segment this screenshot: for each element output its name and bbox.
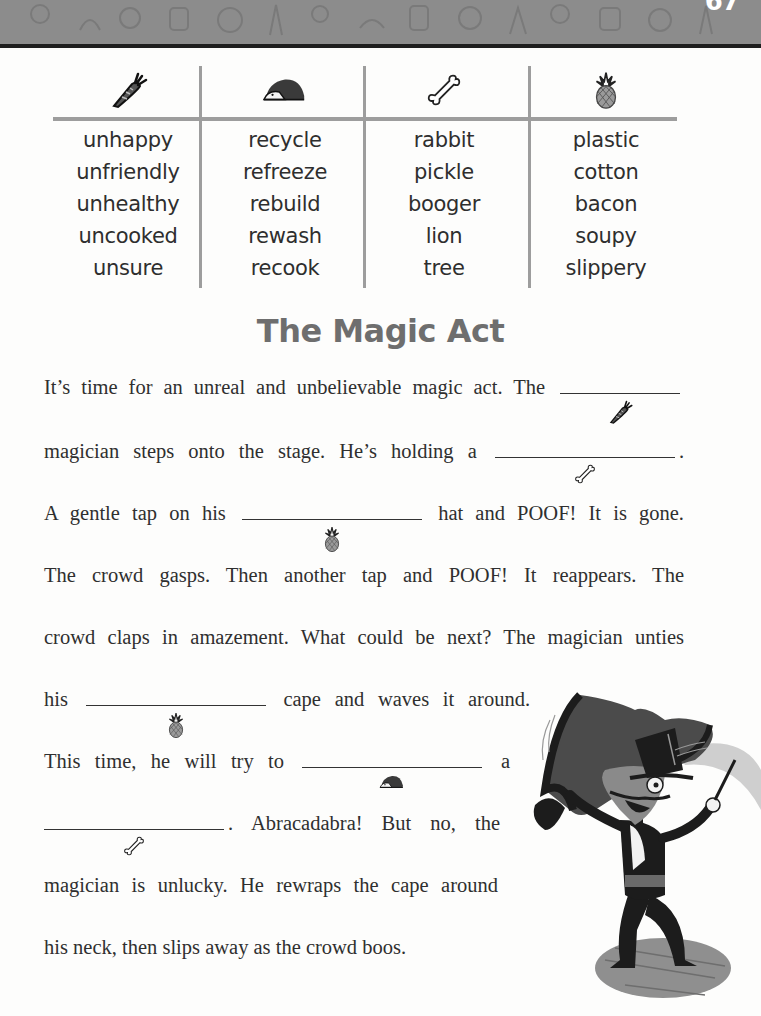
word-cell: plastic: [531, 124, 681, 156]
header-band: 67: [0, 0, 761, 48]
story-line: A gentle tap on his hat and POOF! It is …: [44, 502, 684, 525]
word-cell: recycle: [210, 124, 360, 156]
story-line: magician is unlucky. He rewraps the cape…: [44, 874, 498, 897]
pineapple-icon: [323, 525, 341, 553]
story-line: his cape and waves it around.: [44, 688, 530, 711]
bone-icon: [574, 463, 596, 485]
bone-icon: [426, 72, 462, 108]
word-cell: bacon: [531, 188, 681, 220]
word-cell: soupy: [531, 220, 681, 252]
blank-field[interactable]: [242, 503, 422, 520]
word-cell: booger: [369, 188, 519, 220]
story-line: crowd claps in amazement. What could be …: [44, 626, 684, 649]
blank-field[interactable]: [302, 751, 482, 768]
story-line: The crowd gasps. Then another tap and PO…: [44, 564, 684, 587]
pineapple-icon: [593, 71, 619, 109]
word-cell: rabbit: [369, 124, 519, 156]
word-cell: unfriendly: [53, 156, 203, 188]
table-column-pineapple: plastic cotton bacon soupy slippery: [531, 64, 681, 284]
story-line: . Abracadabra! But no, the: [44, 812, 500, 835]
blank-field[interactable]: [44, 813, 224, 830]
word-cell: unhealthy: [53, 188, 203, 220]
blank-field[interactable]: [560, 377, 680, 394]
word-cell: tree: [369, 252, 519, 284]
story-line: It’s time for an unreal and unbelievable…: [44, 376, 684, 399]
blank-field[interactable]: [495, 441, 675, 458]
word-cell: slippery: [531, 252, 681, 284]
word-cell: refreeze: [210, 156, 360, 188]
table-column-hedgehog: recycle refreeze rebuild rewash recook: [210, 64, 360, 284]
hedgehog-icon: [379, 773, 405, 791]
blank-field[interactable]: [86, 689, 266, 706]
pineapple-icon: [167, 711, 185, 739]
page-number: 67: [705, 0, 739, 16]
story-line: his neck, then slips away as the crowd b…: [44, 936, 406, 959]
word-cell: rewash: [210, 220, 360, 252]
word-cell: pickle: [369, 156, 519, 188]
word-cell: recook: [210, 252, 360, 284]
column-divider: [363, 66, 366, 288]
story-line: This time, he will try to a: [44, 750, 510, 773]
word-cell: cotton: [531, 156, 681, 188]
word-table: unhappy unfriendly unhealthy uncooked un…: [53, 64, 677, 290]
bone-icon: [123, 835, 145, 857]
story-line: magician steps onto the stage. He’s hold…: [44, 440, 684, 463]
word-cell: unhappy: [53, 124, 203, 156]
table-column-carrot: unhappy unfriendly unhealthy uncooked un…: [53, 64, 203, 284]
table-column-bone: rabbit pickle booger lion tree: [369, 64, 519, 284]
word-cell: rebuild: [210, 188, 360, 220]
carrot-icon: [607, 399, 633, 425]
carrot-icon: [108, 70, 148, 110]
story-title: The Magic Act: [0, 312, 761, 350]
word-cell: uncooked: [53, 220, 203, 252]
word-cell: lion: [369, 220, 519, 252]
hedgehog-icon: [262, 74, 308, 106]
magician-illustration: [525, 660, 761, 1010]
word-cell: unsure: [53, 252, 203, 284]
doodle-pattern: [0, 0, 761, 44]
